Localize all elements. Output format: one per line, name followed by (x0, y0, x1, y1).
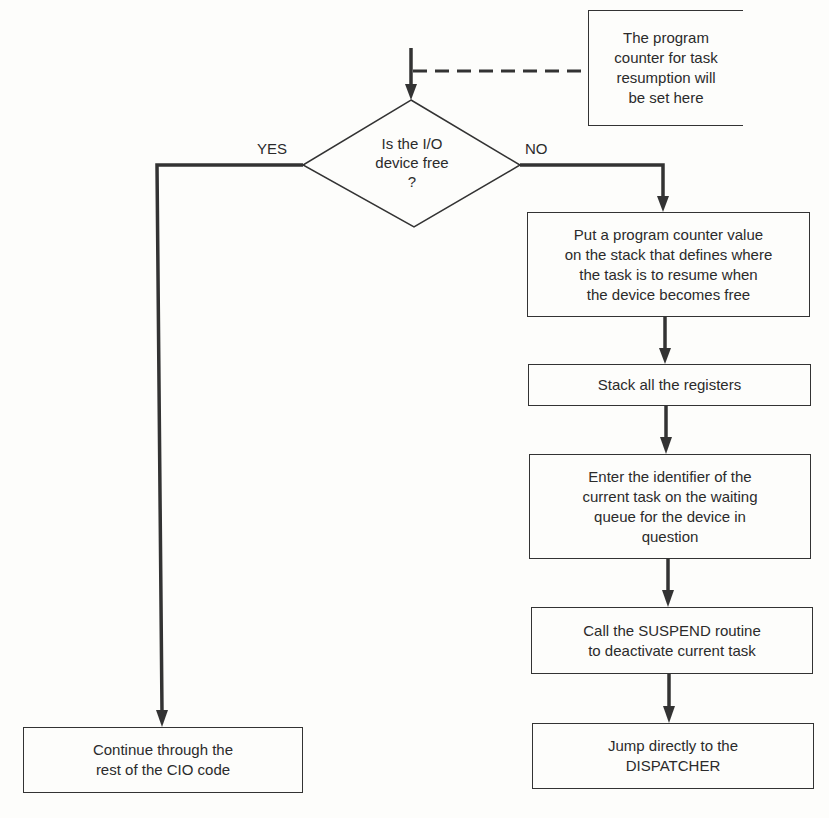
yes-label: YES (257, 140, 287, 157)
connector-2-3 (660, 405, 672, 454)
no-label: NO (525, 140, 548, 157)
connector-1-2 (659, 316, 671, 364)
annotation-box: The program counter for task resumption … (588, 10, 743, 126)
no-path-arrow (520, 165, 669, 212)
step-jump-dispatcher: Jump directly to the DISPATCHER (532, 723, 814, 789)
step-push-program-counter: Put a program counter value on the stack… (527, 212, 810, 317)
connector-3-4 (662, 558, 674, 607)
decision-text: Is the I/O device free ? (340, 134, 484, 191)
step-stack-registers: Stack all the registers (528, 364, 811, 406)
step-enter-identifier: Enter the identifier of the current task… (529, 454, 811, 559)
annotation-text: The program counter for task resumption … (614, 28, 717, 108)
step-continue-cio: Continue through the rest of the CIO cod… (23, 727, 303, 793)
step-call-suspend: Call the SUSPEND routine to deactivate c… (531, 607, 813, 674)
connector-4-5 (663, 673, 675, 723)
entry-arrow (405, 48, 417, 100)
yes-path-arrow (156, 165, 303, 727)
